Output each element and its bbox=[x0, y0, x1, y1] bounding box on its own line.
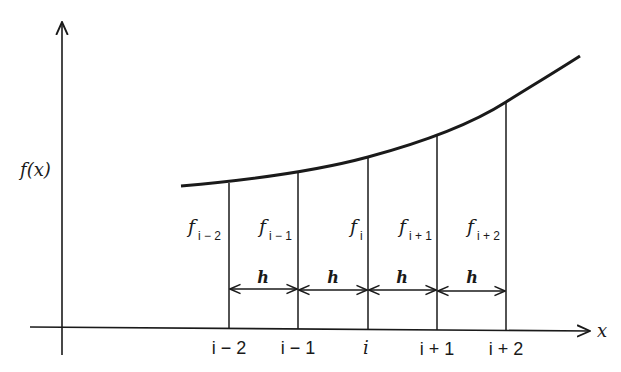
f-label-i-minus-1: f i − 1 bbox=[257, 215, 292, 243]
x-tick-i-minus-1: i − 1 bbox=[281, 338, 316, 358]
function-curve bbox=[181, 56, 580, 186]
h-label-2: h bbox=[327, 268, 339, 287]
f-symbol: f bbox=[465, 215, 477, 237]
x-tick-i: i bbox=[363, 337, 369, 358]
x-axis-label: x bbox=[597, 320, 607, 341]
f-subscript: i bbox=[360, 229, 363, 243]
ordinate-lines bbox=[229, 102, 506, 331]
f-symbol: f bbox=[186, 215, 198, 237]
x-tick-i-plus-2: i + 2 bbox=[489, 339, 524, 359]
f-subscript: i − 1 bbox=[269, 229, 292, 243]
y-axis-label: f(x) bbox=[18, 159, 51, 180]
f-subscript: i + 2 bbox=[477, 229, 500, 243]
h-label-4: h bbox=[466, 268, 478, 287]
f-label-i-plus-2: f i + 2 bbox=[465, 215, 500, 243]
f-symbol: f bbox=[257, 215, 269, 237]
finite-difference-diagram: h h h h f i − 2 f i − 1 f i f i + 1 f i … bbox=[0, 0, 621, 372]
f-symbol: f bbox=[348, 215, 360, 237]
f-label-i: f i bbox=[348, 215, 363, 243]
x-tick-i-minus-2: i − 2 bbox=[212, 338, 247, 358]
f-label-i-plus-1: f i + 1 bbox=[397, 215, 432, 243]
f-subscript: i − 2 bbox=[198, 229, 221, 243]
f-subscript: i + 1 bbox=[409, 229, 432, 243]
x-tick-i-plus-1: i + 1 bbox=[420, 339, 455, 359]
f-symbol: f bbox=[397, 215, 409, 237]
h-label-3: h bbox=[396, 268, 408, 287]
f-label-i-minus-2: f i − 2 bbox=[186, 215, 221, 243]
h-label-1: h bbox=[257, 268, 269, 287]
